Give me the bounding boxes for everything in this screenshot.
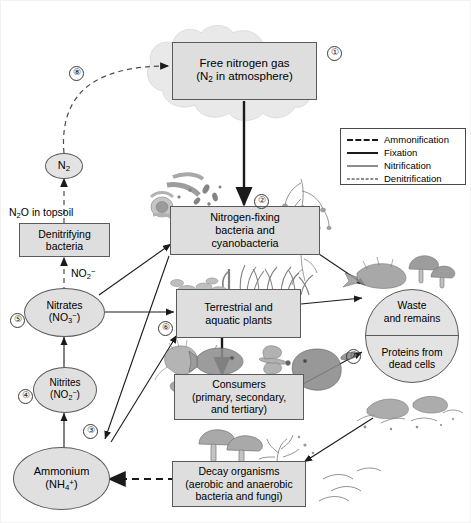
node-waste-and-proteins: Waste and remains Proteins from dead cel… bbox=[365, 289, 459, 383]
decomposers-illustration bbox=[319, 468, 381, 501]
legend-swatch-denitrification bbox=[347, 174, 378, 183]
waste-line4: dead cells bbox=[389, 359, 435, 371]
marker-1: ① bbox=[327, 46, 342, 61]
detritus-illustration bbox=[357, 396, 463, 430]
arrow-plants-to-waste bbox=[301, 298, 362, 304]
node-nitrites: Nitrites (NO2−) bbox=[33, 367, 97, 413]
node-free-nitrogen-gas: Free nitrogen gas (N2 in atmosphere) bbox=[172, 42, 317, 100]
nitrates-line2: (NO3−) bbox=[49, 311, 80, 326]
node-ammonium: Ammonium (NH4+) bbox=[13, 447, 110, 510]
ammonium-line2: (NH4+) bbox=[45, 478, 77, 492]
fungi-illustration bbox=[199, 430, 314, 463]
node-n2-gas: N2 bbox=[45, 153, 83, 179]
node-nitrates: Nitrates (NO3−) bbox=[24, 288, 105, 337]
n2-label: N2 bbox=[58, 159, 70, 173]
consumers-line2: (primary, secondary, bbox=[192, 391, 286, 403]
arrow-ammonium-to-plants bbox=[111, 335, 177, 442]
decay-line1: Decay organisms bbox=[198, 465, 279, 477]
node-consumers: Consumers (primary, secondary, and terti… bbox=[174, 374, 304, 420]
decay-line2: (aerobic and anaerobic bbox=[185, 478, 292, 490]
plants-line2: aquatic plants bbox=[205, 314, 272, 327]
legend-swatch-ammonification bbox=[347, 135, 378, 144]
marker-8: ⑧ bbox=[69, 66, 84, 81]
denitrifying-line2: bacteria bbox=[46, 240, 83, 252]
label-n2o-in-topsoil: N2O in topsoil bbox=[9, 206, 73, 220]
nitrogen-fixing-line2: bacteria and bbox=[215, 224, 274, 237]
legend-label-nitrification: Nitrification bbox=[384, 160, 431, 171]
legend-swatch-nitrification bbox=[347, 161, 378, 170]
node-denitrifying-bacteria: Denitrifying bacteria bbox=[19, 223, 110, 257]
node-decay-organisms: Decay organisms (aerobic and anaerobic b… bbox=[172, 461, 306, 507]
nitrogen-fixing-line3: cyanobacteria bbox=[211, 237, 278, 250]
nitrites-line2: (NO2−) bbox=[50, 389, 80, 402]
legend-label-ammonification: Ammonification bbox=[384, 134, 449, 145]
waste-line3: Proteins from bbox=[381, 347, 442, 359]
proteins-bottom-half: Proteins from dead cells bbox=[366, 336, 458, 382]
marker-6: ⑥ bbox=[158, 321, 173, 336]
plants-line1: Terrestrial and bbox=[204, 301, 272, 314]
waste-line1: Waste bbox=[398, 300, 427, 312]
marker-5: ⑤ bbox=[10, 313, 25, 328]
marker-7: ⑦ bbox=[346, 349, 361, 364]
nitrites-line1: Nitrites bbox=[49, 377, 80, 389]
legend-item-denitrification: Denitrification bbox=[341, 172, 465, 185]
free-nitrogen-line2: (N2 in atmosphere) bbox=[196, 70, 293, 85]
legend-item-ammonification: Ammonification bbox=[341, 133, 465, 146]
legend-item-nitrification: Nitrification bbox=[341, 159, 465, 172]
node-nitrogen-fixing-bacteria: Nitrogen-fixing bacteria and cyanobacter… bbox=[170, 206, 320, 255]
label-no2-minus: NO2− bbox=[71, 267, 95, 281]
legend: Ammonification Fixation Nitrification De… bbox=[340, 128, 466, 185]
legend-swatch-fixation bbox=[347, 148, 378, 157]
marker-3: ③ bbox=[83, 424, 98, 439]
arrow-waste-to-decay bbox=[304, 418, 373, 462]
decay-line3: bacteria and fungi) bbox=[196, 490, 283, 502]
ammonium-line1: Ammonium bbox=[34, 465, 90, 478]
legend-item-fixation: Fixation bbox=[341, 146, 465, 159]
nitrogen-cycle-diagram: Free nitrogen gas (N2 in atmosphere) ① ⑧… bbox=[0, 0, 471, 523]
legend-label-denitrification: Denitrification bbox=[384, 173, 442, 184]
consumers-line1: Consumers bbox=[212, 378, 266, 390]
free-nitrogen-line1: Free nitrogen gas bbox=[199, 57, 289, 71]
waste-line2: and remains bbox=[384, 313, 441, 325]
nitrogen-fixing-line1: Nitrogen-fixing bbox=[210, 211, 280, 224]
legend-label-fixation: Fixation bbox=[384, 147, 417, 158]
nitrates-line1: Nitrates bbox=[46, 299, 82, 311]
waste-top-half: Waste and remains bbox=[366, 290, 458, 336]
denitrifying-line1: Denitrifying bbox=[38, 228, 91, 240]
marker-2: ② bbox=[254, 194, 269, 209]
node-terrestrial-aquatic-plants: Terrestrial and aquatic plants bbox=[176, 289, 301, 338]
marker-4: ④ bbox=[18, 389, 33, 404]
consumers-line3: and tertiary) bbox=[211, 403, 267, 415]
